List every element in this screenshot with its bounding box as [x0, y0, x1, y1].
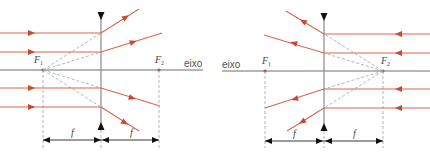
axis-label: eixo — [222, 59, 241, 70]
focus-label-f2: F2 — [154, 54, 164, 66]
focus-label-f2: F2 — [380, 55, 390, 67]
lens-bottom-arrow-icon — [321, 123, 328, 131]
focus-label-f1: F1 — [33, 54, 43, 66]
right-diagram: eixo F1 F2 — [222, 11, 430, 148]
diverging-lens-diagrams: eixo F1 F2 — [0, 0, 430, 157]
focal-length-label-right: f — [353, 128, 357, 139]
axis-label: eixo — [184, 58, 203, 69]
focal-length-label-left: f — [71, 127, 75, 138]
focus-label-f1: F1 — [261, 55, 271, 67]
focal-length-label-right: f — [130, 127, 134, 138]
left-diagram: eixo F1 F2 — [0, 9, 203, 148]
focal-length-label-left: f — [293, 128, 297, 139]
lens-top-arrow-icon — [321, 13, 328, 21]
lens-top-arrow-icon — [98, 12, 105, 20]
lens-bottom-arrow-icon — [98, 122, 105, 130]
